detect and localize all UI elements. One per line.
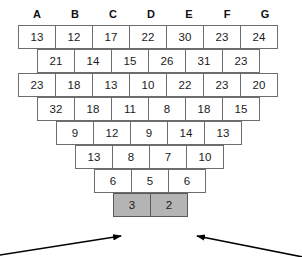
- pyramid-cell: 15: [222, 97, 260, 121]
- pyramid-cell: 10: [129, 73, 167, 97]
- pyramid-cell: 30: [166, 25, 204, 49]
- column-header-a: A: [18, 4, 56, 24]
- pyramid-cell: 11: [111, 97, 149, 121]
- column-header-e: E: [170, 4, 208, 24]
- pyramid-cell: 26: [148, 49, 186, 73]
- pyramid-cell: 15: [111, 49, 149, 73]
- column-header-f: F: [208, 4, 246, 24]
- pyramid-cell: 24: [240, 25, 278, 49]
- pyramid-cell-shaded: 2: [150, 193, 188, 217]
- pyramid-row: 32181181815: [37, 97, 284, 121]
- pyramid-cell: 13: [92, 73, 130, 97]
- pyramid-rows: 1312172230232421141526312323181310222320…: [18, 25, 284, 217]
- pyramid-cell: 14: [74, 49, 112, 73]
- pyramid-cell: 7: [149, 145, 187, 169]
- pyramid-cell: 13: [75, 145, 113, 169]
- column-header-c: C: [94, 4, 132, 24]
- pyramid-cell: 23: [18, 73, 56, 97]
- pyramid-cell: 13: [204, 121, 242, 145]
- pyramid-cell: 12: [55, 25, 93, 49]
- pyramid-cell-shaded: 3: [113, 193, 151, 217]
- pyramid-cell: 18: [55, 73, 93, 97]
- pyramid-row: 32: [113, 193, 284, 217]
- pyramid-diagram: A B C D E F G 13121722302324211415263123…: [0, 0, 302, 257]
- pyramid-cell: 12: [93, 121, 131, 145]
- pyramid-cell: 9: [56, 121, 94, 145]
- column-header-row: A B C D E F G: [18, 4, 284, 24]
- left-arrow-icon: [0, 236, 121, 256]
- pyramid-row: 13121722302324: [18, 25, 284, 49]
- pyramid-cell: 18: [185, 97, 223, 121]
- pyramid-row: 91291413: [56, 121, 284, 145]
- pyramid-cell: 22: [129, 25, 167, 49]
- column-header-d: D: [132, 4, 170, 24]
- pyramid-cell: 6: [168, 169, 206, 193]
- pyramid-row: 138710: [75, 145, 284, 169]
- pyramid-cell: 14: [167, 121, 205, 145]
- pyramid-cell: 9: [130, 121, 168, 145]
- pyramid-cell: 23: [203, 25, 241, 49]
- pyramid-cell: 5: [131, 169, 169, 193]
- pyramid-cell: 8: [112, 145, 150, 169]
- pyramid-row: 23181310222320: [18, 73, 284, 97]
- pyramid-cell: 18: [74, 97, 112, 121]
- column-header-b: B: [56, 4, 94, 24]
- pyramid-cell: 17: [92, 25, 130, 49]
- pyramid-cell: 20: [240, 73, 278, 97]
- pyramid-row: 211415263123: [37, 49, 284, 73]
- pyramid-cell: 6: [94, 169, 132, 193]
- pyramid-cell: 10: [186, 145, 224, 169]
- pyramid-cell: 13: [18, 25, 56, 49]
- right-arrow-icon: [197, 236, 302, 257]
- pyramid-cell: 21: [37, 49, 75, 73]
- pyramid-cell: 22: [166, 73, 204, 97]
- pyramid-cell: 31: [185, 49, 223, 73]
- pyramid-cell: 8: [148, 97, 186, 121]
- pyramid-row: 656: [94, 169, 284, 193]
- pyramid-cell: 23: [222, 49, 260, 73]
- column-header-g: G: [246, 4, 284, 24]
- pyramid-cell: 32: [37, 97, 75, 121]
- pyramid-cell: 23: [203, 73, 241, 97]
